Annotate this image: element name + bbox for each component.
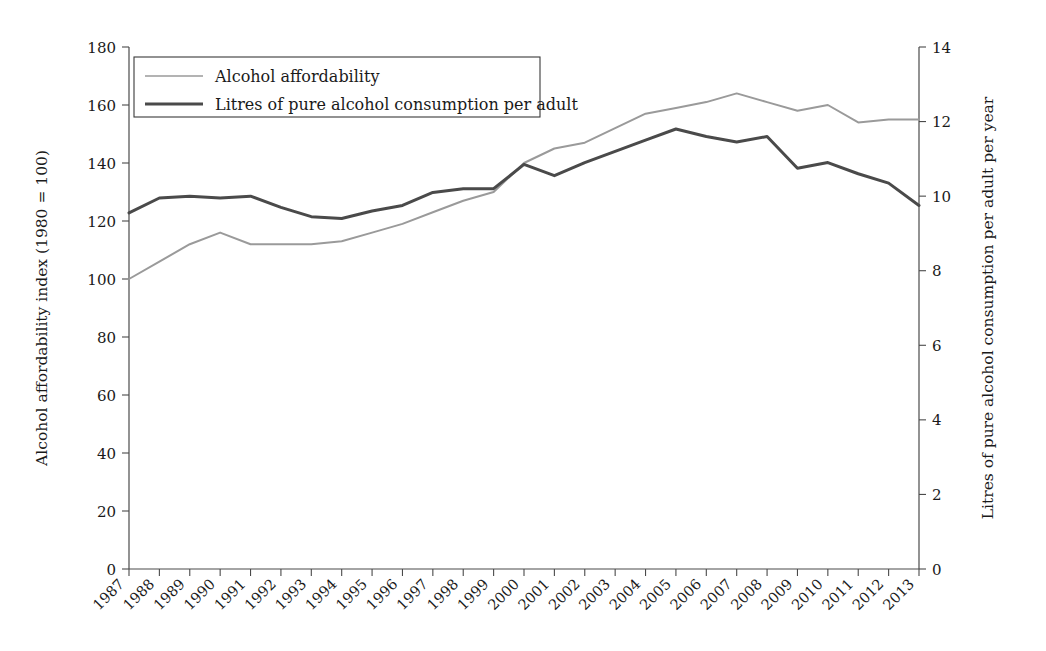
x-axis-tick-label: 1998 bbox=[424, 576, 461, 613]
x-axis-tick-label: 2006 bbox=[667, 576, 704, 613]
y-axis-left-tick-label: 160 bbox=[87, 97, 116, 115]
x-axis-tick-label: 1997 bbox=[394, 576, 431, 613]
x-axis-tick-label: 2003 bbox=[576, 576, 613, 613]
x-axis-tick-label: 2004 bbox=[606, 576, 643, 613]
x-axis-tick-label: 2002 bbox=[545, 576, 582, 613]
y-axis-left-tick-label: 20 bbox=[97, 503, 116, 521]
legend-label-0: Alcohol affordability bbox=[214, 67, 379, 86]
series-line-1 bbox=[129, 129, 919, 218]
x-axis-tick-label: 2010 bbox=[789, 576, 826, 613]
y-axis-left-tick-label: 100 bbox=[87, 271, 116, 289]
x-axis-tick-label: 2013 bbox=[880, 576, 917, 613]
x-axis-tick-label: 2005 bbox=[637, 576, 674, 613]
x-axis-tick-label: 1989 bbox=[150, 576, 187, 613]
y-axis-right-tick-label: 0 bbox=[932, 561, 942, 579]
chart-page: 0204060801001201401601800246810121419871… bbox=[0, 0, 1046, 651]
x-axis-tick-label: 1995 bbox=[333, 576, 370, 613]
y-axis-right-tick-label: 8 bbox=[932, 262, 942, 280]
y-axis-right-title: Litres of pure alcohol consumption per a… bbox=[979, 96, 997, 519]
y-axis-right-tick-label: 12 bbox=[932, 113, 951, 131]
x-axis-tick-label: 2001 bbox=[515, 576, 552, 613]
x-axis-tick-label: 1994 bbox=[302, 576, 339, 613]
x-axis-tick-label: 2007 bbox=[697, 576, 734, 613]
x-axis-tick-label: 1992 bbox=[242, 576, 279, 613]
y-axis-right-tick-label: 14 bbox=[932, 39, 951, 57]
x-axis-tick-label: 1988 bbox=[120, 576, 157, 613]
y-axis-left-tick-label: 80 bbox=[97, 329, 116, 347]
series-line-0 bbox=[129, 93, 919, 279]
y-axis-right-tick-label: 6 bbox=[932, 337, 942, 355]
y-axis-left-tick-label: 120 bbox=[87, 213, 116, 231]
x-axis-tick-label: 2012 bbox=[849, 576, 886, 613]
dual-axis-line-chart: 0204060801001201401601800246810121419871… bbox=[0, 0, 1046, 651]
x-axis-tick-label: 1996 bbox=[363, 576, 400, 613]
x-axis-tick-label: 2008 bbox=[728, 576, 765, 613]
x-axis-tick-label: 2011 bbox=[819, 576, 856, 613]
y-axis-right-tick-label: 2 bbox=[932, 486, 942, 504]
y-axis-right-tick-label: 10 bbox=[932, 188, 951, 206]
x-axis-tick-label: 1999 bbox=[454, 576, 491, 613]
x-axis-tick-label: 2009 bbox=[758, 576, 795, 613]
y-axis-left-title: Alcohol affordability index (1980 = 100) bbox=[33, 150, 51, 467]
x-axis-tick-label: 2000 bbox=[485, 576, 522, 613]
y-axis-left-tick-label: 180 bbox=[87, 39, 116, 57]
y-axis-left-tick-label: 60 bbox=[97, 387, 116, 405]
plot-area: 0204060801001201401601800246810121419871… bbox=[33, 39, 997, 614]
x-axis-tick-label: 1990 bbox=[181, 576, 218, 613]
y-axis-left-tick-label: 40 bbox=[97, 445, 116, 463]
legend-label-1: Litres of pure alcohol consumption per a… bbox=[215, 95, 578, 114]
x-axis-tick-label: 1993 bbox=[272, 576, 309, 613]
x-axis-tick-label: 1991 bbox=[211, 576, 248, 613]
x-axis-tick-label: 1987 bbox=[90, 576, 127, 613]
y-axis-right-tick-label: 4 bbox=[932, 411, 942, 429]
y-axis-left-tick-label: 140 bbox=[87, 155, 116, 173]
